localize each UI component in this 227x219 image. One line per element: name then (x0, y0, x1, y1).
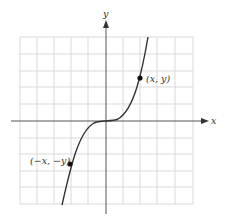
point-x-y (137, 75, 142, 80)
x-axis-label: x (211, 115, 217, 126)
point-label-x-y: (x, y) (146, 73, 170, 84)
y-axis-label: y (102, 8, 109, 19)
odd-function-diagram: x y (x, y) (−x, −y) (0, 0, 227, 219)
point-label-neg-x-neg-y: (−x, −y) (30, 155, 70, 166)
y-axis-arrow-icon (103, 20, 109, 28)
x-axis-arrow-icon (201, 118, 209, 124)
